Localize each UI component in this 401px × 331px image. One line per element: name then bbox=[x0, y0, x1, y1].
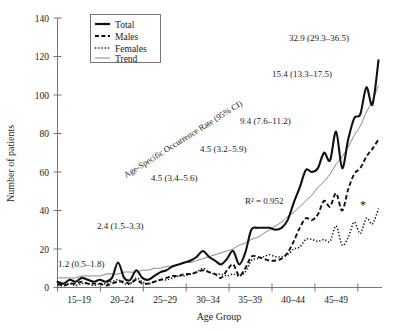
chart-canvas: 140 120 100 80 60 40 20 0 Number of pati… bbox=[0, 0, 401, 331]
annotation-rate-35-39: 9.4 (7.6–11.2) bbox=[240, 116, 291, 126]
y-tick-label-120: 120 bbox=[35, 52, 50, 62]
legend-label-trend: Trend bbox=[115, 54, 138, 64]
y-tick-label-60: 60 bbox=[40, 168, 50, 178]
legend-label-males: Males bbox=[115, 32, 139, 42]
legend-label-females: Females bbox=[115, 44, 147, 54]
legend[interactable]: Total Males Females Trend bbox=[91, 15, 161, 64]
annotation-rate-40-44: 15.4 (13.3–17.5) bbox=[272, 69, 332, 79]
annotation-rate-45-49: 32.9 (29.3–36.5) bbox=[289, 33, 349, 43]
x-axis: 15–19 20–24 25–29 30–34 35–39 40–44 45–4… bbox=[58, 284, 383, 323]
annotation-rate-20-24: 2.4 (1.5–3.3) bbox=[97, 221, 144, 231]
x-axis-title: Age Group bbox=[197, 311, 242, 322]
annotation-rate-25-29: 4.5 (3.4–5.6) bbox=[151, 173, 198, 183]
plot-area bbox=[58, 60, 379, 285]
legend-label-total: Total bbox=[115, 20, 135, 30]
y-tick-label-20: 20 bbox=[40, 245, 50, 255]
annotation-significance-marker: * bbox=[360, 198, 366, 212]
x-tick-label-25-29: 25–29 bbox=[153, 295, 177, 305]
x-tick-label-35-39: 35–39 bbox=[238, 295, 262, 305]
x-tick-label-40-44: 40–44 bbox=[281, 295, 305, 305]
y-tick-label-80: 80 bbox=[40, 129, 50, 139]
chart-figure: 140 120 100 80 60 40 20 0 Number of pati… bbox=[0, 0, 401, 331]
y-axis-title: Number of patients bbox=[5, 125, 16, 202]
x-tick-label-45-49: 45–49 bbox=[324, 295, 348, 305]
y-axis: 140 120 100 80 60 40 20 0 Number of pati… bbox=[5, 14, 62, 294]
y-tick-label-0: 0 bbox=[44, 283, 49, 293]
y-tick-label-40: 40 bbox=[40, 206, 50, 216]
annotations: 1.2 (0.5–1.8) 2.4 (1.5–3.3) 4.5 (3.4–5.6… bbox=[58, 33, 366, 269]
x-tick-label-20-24: 20–24 bbox=[110, 295, 134, 305]
y-tick-label-100: 100 bbox=[35, 91, 50, 101]
series-total-line bbox=[58, 60, 379, 283]
x-tick-label-15-19: 15–19 bbox=[67, 295, 91, 305]
x-tick-label-30-34: 30–34 bbox=[196, 295, 220, 305]
y-tick-label-140: 140 bbox=[35, 14, 50, 24]
annotation-rate-15-19: 1.2 (0.5–1.8) bbox=[58, 259, 105, 269]
annotation-rate-30-34: 4.5 (3.2–5.9) bbox=[200, 144, 247, 154]
rate-axis-label: Age-Specific Occurrence Rate (95% CI) bbox=[122, 98, 244, 180]
annotation-r-squared: R² = 0.952 bbox=[245, 196, 284, 206]
